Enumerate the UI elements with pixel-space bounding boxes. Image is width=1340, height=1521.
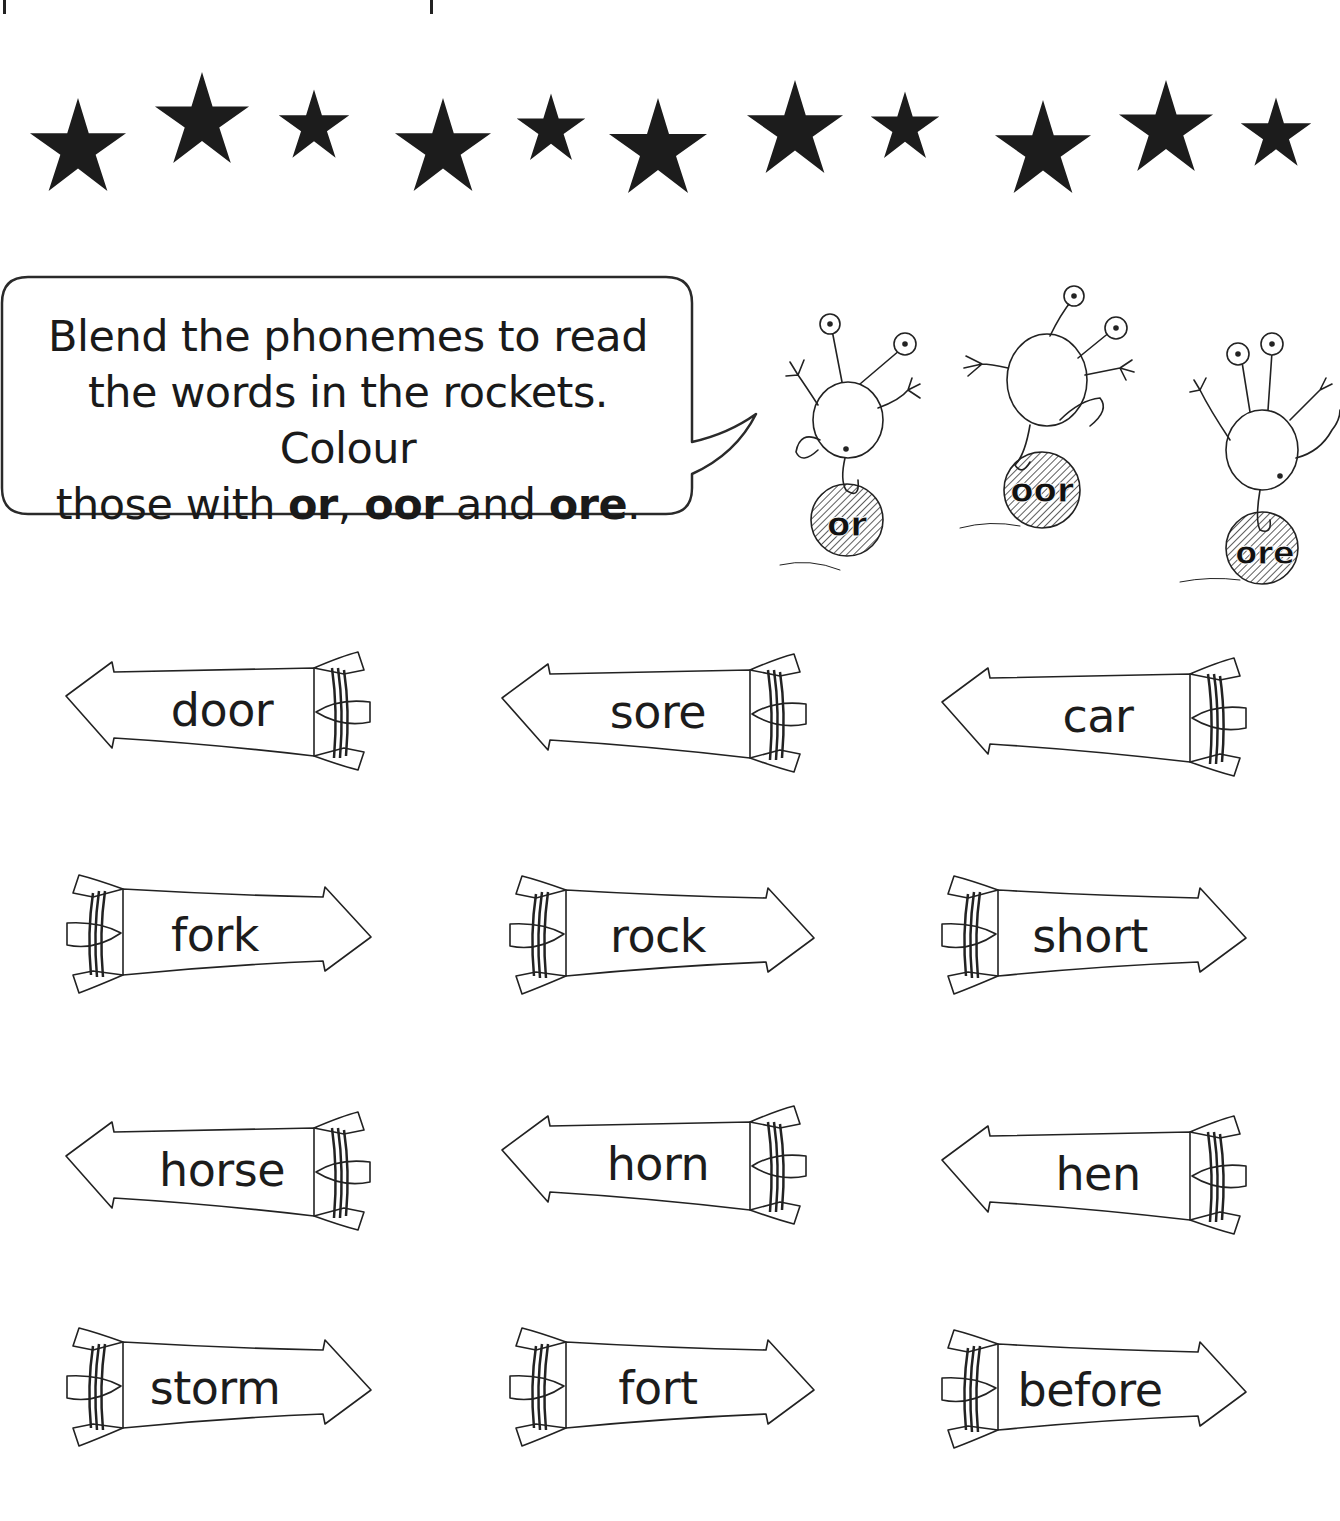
star-icon bbox=[394, 96, 492, 194]
rocket-word: door bbox=[147, 640, 297, 780]
rocket-horse[interactable]: horse bbox=[52, 1100, 382, 1240]
rocket-storm[interactable]: storm bbox=[55, 1318, 385, 1458]
instruction-line-3: those with or, oor and ore. bbox=[18, 476, 678, 532]
rocket-car[interactable]: car bbox=[928, 646, 1258, 786]
rocket-rock[interactable]: rock bbox=[498, 866, 828, 1006]
rocket-fork[interactable]: fork bbox=[55, 865, 385, 1005]
star-icon bbox=[1240, 96, 1312, 168]
instruction-speech-bubble: Blend the phonemes to read the words in … bbox=[0, 274, 768, 524]
star-icon bbox=[746, 78, 844, 176]
grapheme-or: or bbox=[288, 479, 338, 529]
rocket-word: fort bbox=[568, 1318, 748, 1458]
star-icon bbox=[516, 92, 586, 162]
rocket-word: before bbox=[1000, 1320, 1180, 1460]
star-icon bbox=[870, 90, 940, 160]
rocket-horn[interactable]: horn bbox=[488, 1094, 818, 1234]
ball-label-or: or bbox=[827, 504, 867, 544]
rocket-before[interactable]: before bbox=[930, 1320, 1260, 1460]
instruction-line-2: the words in the rockets. Colour bbox=[18, 364, 678, 476]
rocket-word: fork bbox=[125, 865, 305, 1005]
rocket-sore[interactable]: sore bbox=[488, 642, 818, 782]
rocket-door[interactable]: door bbox=[52, 640, 382, 780]
rocket-word: car bbox=[1023, 646, 1173, 786]
star-icon bbox=[994, 98, 1092, 196]
rocket-hen[interactable]: hen bbox=[928, 1104, 1258, 1244]
alien-creatures-icon: or oor ore bbox=[760, 280, 1340, 600]
star-icon bbox=[29, 96, 127, 194]
instruction-text: Blend the phonemes to read the words in … bbox=[18, 308, 678, 532]
crop-mark-left bbox=[3, 0, 6, 14]
rocket-word: storm bbox=[125, 1318, 305, 1458]
star-icon bbox=[1118, 78, 1214, 174]
ball-label-ore: ore bbox=[1235, 534, 1294, 572]
grapheme-ore: ore bbox=[549, 479, 627, 529]
rocket-word: rock bbox=[568, 866, 748, 1006]
rocket-word: horn bbox=[583, 1094, 733, 1234]
grapheme-oor: oor bbox=[364, 479, 443, 529]
rocket-word: horse bbox=[147, 1100, 297, 1240]
star-icon bbox=[154, 70, 250, 166]
instruction-line-1: Blend the phonemes to read bbox=[18, 308, 678, 364]
rocket-word: sore bbox=[583, 642, 733, 782]
rocket-word: hen bbox=[1023, 1104, 1173, 1244]
star-icon bbox=[608, 96, 708, 196]
creatures-illustration: or oor ore bbox=[760, 280, 1340, 600]
rocket-short[interactable]: short bbox=[930, 866, 1260, 1006]
crop-mark-center bbox=[430, 0, 433, 14]
rocket-fort[interactable]: fort bbox=[498, 1318, 828, 1458]
rocket-word: short bbox=[1000, 866, 1180, 1006]
star-icon bbox=[278, 88, 350, 160]
ball-label-oor: oor bbox=[1010, 470, 1074, 510]
